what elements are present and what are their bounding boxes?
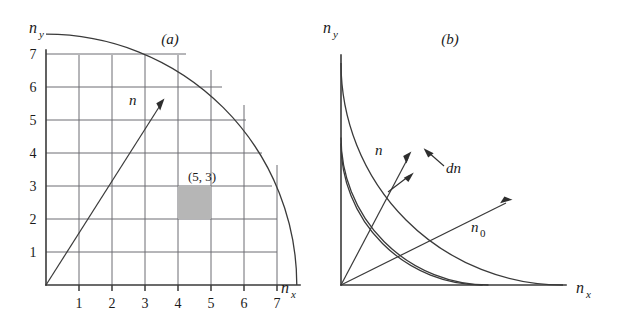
panel-b: n n 0 dn n y n x — [310, 0, 621, 321]
x-tick-label-4: 4 — [175, 296, 182, 311]
x-tick-label-1: 1 — [76, 296, 83, 311]
shaded-cell-label: (5, 3) — [188, 169, 216, 184]
x-axis-title-base: n — [576, 279, 584, 296]
vector-n — [46, 99, 165, 286]
y-tick-label-2: 2 — [30, 212, 37, 227]
x-tick-label-2: 2 — [109, 296, 116, 311]
quarter-circle-arc — [46, 34, 297, 285]
x-axis-title-subscript: x — [585, 288, 591, 300]
y-axis-title-subscript: y — [38, 28, 44, 40]
y-tick-label-4: 4 — [30, 146, 37, 161]
x-tick-label-5: 5 — [208, 296, 215, 311]
dn-label: dn — [446, 160, 461, 176]
panel-a: n (5, 3) 1 2 3 4 5 6 7 1 2 3 4 5 6 7 — [0, 0, 310, 321]
vector-n — [341, 152, 411, 285]
x-axis-title-subscript: x — [290, 288, 296, 300]
panel-a-label: (a) — [161, 31, 179, 48]
vector-n-label: n — [375, 142, 383, 158]
y-axis-title-subscript: y — [332, 28, 338, 40]
x-tick-label-3: 3 — [142, 296, 149, 311]
x-axis-ticks — [79, 285, 277, 291]
x-tick-label-7: 7 — [274, 296, 281, 311]
y-tick-label-7: 7 — [30, 47, 37, 62]
vector-n0-label-base: n — [471, 219, 479, 235]
vector-n0-label-subscript: 0 — [480, 227, 486, 239]
x-axis-title: n x — [281, 279, 296, 300]
y-axis-title: n y — [323, 19, 338, 40]
dn-pointer-upper — [424, 148, 444, 166]
panel-b-label: (b) — [441, 31, 459, 48]
y-tick-label-1: 1 — [30, 245, 37, 260]
vector-n-label: n — [129, 92, 137, 108]
vector-n0-label: n 0 — [471, 219, 486, 239]
y-tick-label-6: 6 — [30, 80, 37, 95]
grid-lines-horizontal — [46, 54, 277, 252]
y-axis-title-base: n — [29, 19, 37, 36]
figure-root: n (5, 3) 1 2 3 4 5 6 7 1 2 3 4 5 6 7 — [0, 0, 621, 321]
shaded-unit-cell — [178, 186, 211, 219]
y-axis-title: n y — [29, 19, 44, 40]
x-tick-label-6: 6 — [241, 296, 248, 311]
y-tick-label-3: 3 — [30, 179, 37, 194]
y-tick-label-5: 5 — [30, 113, 37, 128]
x-axis-title-base: n — [281, 279, 289, 296]
y-axis-title-base: n — [323, 19, 331, 36]
grid-lines-vertical — [79, 55, 277, 285]
x-axis-title: n x — [576, 279, 591, 300]
dn-pointer-lower — [388, 172, 414, 192]
